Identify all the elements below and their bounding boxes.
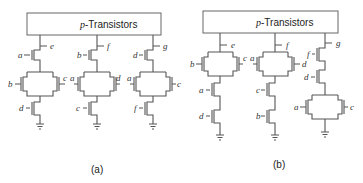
gate-label: b: [256, 111, 261, 121]
gate-label: a: [250, 53, 255, 63]
panel-b: p-Transistors e b c a d f a d c b: [190, 11, 354, 170]
gate-label: d: [133, 50, 138, 60]
gate-label: d: [302, 59, 307, 69]
gate-label: a: [127, 73, 132, 83]
gate-label: a: [70, 73, 75, 83]
nmos-network-f: f b a d c: [70, 35, 121, 129]
gate-label: b: [190, 59, 195, 69]
nmos-network-f-b: f a d c b: [250, 33, 307, 140]
circuit-diagram: p-Transistors e a b c d f b: [0, 0, 363, 183]
output-label-g: g: [163, 41, 168, 51]
gate-label: b: [8, 79, 13, 89]
output-label-e: e: [50, 41, 54, 51]
output-label-f: f: [107, 41, 111, 51]
gate-label: a: [199, 85, 204, 95]
gate-label: d: [304, 72, 309, 82]
output-label-f: f: [286, 40, 290, 50]
gate-label: c: [350, 102, 354, 112]
gate-label: c: [76, 103, 80, 113]
gate-label: c: [63, 73, 67, 83]
output-label-e: e: [231, 40, 235, 50]
gate-label: d: [199, 111, 204, 121]
ground-icon: [93, 124, 101, 129]
gate-label: f: [134, 103, 138, 113]
ground-icon: [271, 135, 279, 140]
nmos-network-g: g d a c f: [127, 35, 181, 129]
p-transistors-title-b: p-Transistors: [255, 17, 313, 28]
caption-a: (a): [91, 164, 103, 175]
gate-label: a: [294, 102, 299, 112]
caption-b: (b): [273, 159, 285, 170]
nmos-network-g-b: g f d a c: [294, 33, 354, 137]
ground-icon: [149, 124, 157, 129]
output-label-g: g: [336, 38, 341, 48]
p-transistors-title-a: p-Transistors: [79, 19, 137, 30]
nmos-network-e-b: e b c a d: [190, 33, 247, 140]
gate-label: c: [256, 85, 260, 95]
ground-icon: [36, 124, 44, 129]
gate-label: d: [116, 73, 121, 83]
gate-label: c: [177, 79, 181, 89]
ground-icon: [216, 135, 224, 140]
gate-label: b: [77, 50, 82, 60]
gate-label: c: [243, 53, 247, 63]
gate-label: a: [18, 50, 23, 60]
panel-a: p-Transistors e a b c d f b: [8, 13, 181, 175]
ground-icon: [321, 132, 329, 137]
nmos-network-e: e a b c d: [8, 35, 67, 129]
gate-label: d: [19, 103, 24, 113]
gate-label: f: [307, 49, 311, 59]
